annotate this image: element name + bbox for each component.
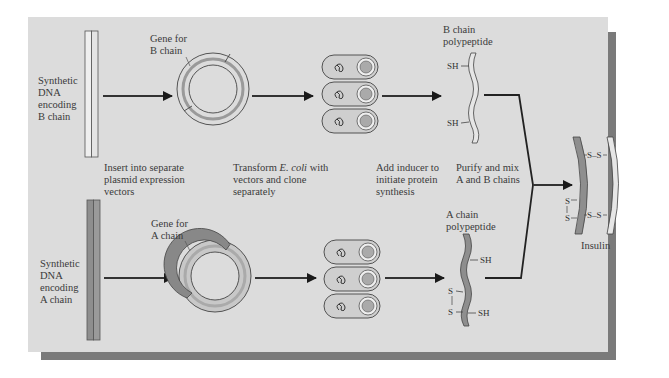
merge-connector xyxy=(484,95,572,278)
b-row-ecoli-cells xyxy=(322,55,378,133)
svg-text:SH: SH xyxy=(480,255,492,265)
ecoli-cell-icon xyxy=(322,109,378,133)
a-chain-dna-label: Synthetic DNA encoding A chain xyxy=(40,258,80,306)
step-induce-label: Add inducer to initiate protein synthesi… xyxy=(376,162,439,198)
a-chain-gene-label: Gene for A chain xyxy=(151,218,188,242)
svg-text:SH: SH xyxy=(447,61,459,71)
ecoli-cell-icon xyxy=(324,240,380,264)
svg-text:S–S: S–S xyxy=(587,210,602,220)
b-chain-polypeptide-icon: SH SH xyxy=(447,53,479,143)
b-chain-plasmid-icon xyxy=(177,53,249,125)
insulin-label: Insulin xyxy=(581,240,610,252)
b-chain-synthetic-dna-bar xyxy=(85,31,98,157)
svg-text:SH: SH xyxy=(447,118,459,128)
step-purify-label: Purify and mix A and B chains xyxy=(456,162,520,186)
ecoli-cell-icon xyxy=(324,294,380,318)
svg-text:S: S xyxy=(565,213,570,223)
step-transform-label: Transform E. coli with vectors and clone… xyxy=(233,162,328,198)
step-insert-label: Insert into separate plasmid expression … xyxy=(104,162,185,198)
svg-text:S: S xyxy=(448,307,453,317)
ecoli-cell-icon xyxy=(322,55,378,79)
a-chain-polypeptide-icon: SH SH S S xyxy=(448,234,492,326)
ecoli-cell-icon xyxy=(324,267,380,291)
b-chain-polypeptide-label: B chain polypeptide xyxy=(443,24,493,48)
a-chain-polypeptide-label: A chain polypeptide xyxy=(446,209,496,233)
svg-text:SH: SH xyxy=(478,308,490,318)
insulin-production-diagram: SH SH xyxy=(0,0,669,378)
b-chain-dna-label: Synthetic DNA encoding B chain xyxy=(38,75,78,123)
insulin-molecule-icon: S–S S–S S S xyxy=(565,137,619,234)
a-row-ecoli-cells xyxy=(324,240,380,318)
a-chain-synthetic-dna-bar xyxy=(87,200,100,340)
svg-text:S: S xyxy=(565,196,570,206)
ecoli-cell-icon xyxy=(322,82,378,106)
svg-text:S–S: S–S xyxy=(587,150,602,160)
b-chain-gene-label: Gene for B chain xyxy=(150,33,187,57)
svg-text:S: S xyxy=(448,286,453,296)
